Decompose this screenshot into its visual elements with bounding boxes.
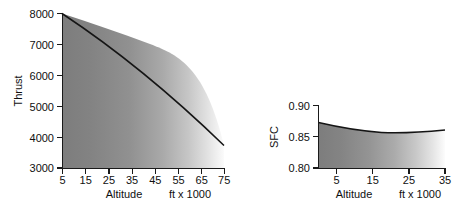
sfc-ytick-090: 0.90 [289,100,310,112]
thrust-x-axis-title: Altitude [106,188,143,200]
thrust-chart-svg: 8000 7000 6000 5000 4000 3000 5 15 25 35 [0,0,250,209]
thrust-ytick-4000: 4000 [30,132,54,144]
thrust-xtick-55: 55 [172,174,184,186]
thrust-x-axis-units: ft x 1000 [169,188,211,200]
sfc-y-ticks [313,106,319,169]
sfc-x-axis-units: ft x 1000 [399,188,441,200]
thrust-xtick-5: 5 [59,174,65,186]
sfc-ytick-080: 0.80 [289,162,310,174]
thrust-y-axis-title: Thrust [12,75,24,106]
thrust-xtick-35: 35 [126,174,138,186]
sfc-ytick-085: 0.85 [289,131,310,143]
thrust-ytick-6000: 6000 [30,70,54,82]
thrust-xtick-25: 25 [103,174,115,186]
thrust-ytick-7000: 7000 [30,39,54,51]
thrust-y-ticks [57,14,62,169]
sfc-chart-panel: 0.90 0.85 0.80 5 15 25 35 Altitude ft x … [250,0,469,209]
thrust-xtick-75: 75 [218,174,230,186]
sfc-area-fill [319,123,446,168]
sfc-x-axis-title: Altitude [336,188,373,200]
sfc-xtick-35: 35 [439,174,451,186]
sfc-chart-svg: 0.90 0.85 0.80 5 15 25 35 Altitude ft x … [250,0,469,209]
sfc-xtick-15: 15 [367,174,379,186]
sfc-y-axis-title: SFC [268,126,280,148]
thrust-chart-panel: 8000 7000 6000 5000 4000 3000 5 15 25 35 [0,0,250,209]
sfc-xtick-25: 25 [403,174,415,186]
sfc-xtick-5: 5 [334,174,340,186]
thrust-ytick-5000: 5000 [30,101,54,113]
thrust-ytick-8000: 8000 [30,8,54,20]
thrust-xtick-45: 45 [149,174,161,186]
thrust-xtick-15: 15 [80,174,92,186]
thrust-xtick-65: 65 [196,174,208,186]
thrust-ytick-3000: 3000 [30,162,54,174]
figure-canvas: 8000 7000 6000 5000 4000 3000 5 15 25 35 [0,0,469,209]
